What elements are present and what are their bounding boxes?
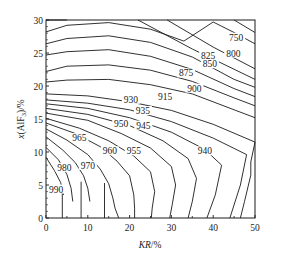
y-tick-label: 25 [34, 49, 44, 59]
contour-level-label: 955 [127, 146, 142, 156]
contour-level-label: 970 [81, 161, 96, 171]
y-tick-label: 10 [34, 148, 44, 158]
y-axis-label-body: (AlF [16, 117, 27, 135]
y-tick-label: 15 [34, 115, 44, 125]
contour-level-label: 875 [179, 68, 194, 78]
contour-line [230, 155, 247, 218]
contour-line [113, 198, 119, 218]
contour-line [188, 178, 196, 218]
contour-level-label: 750 [229, 33, 244, 43]
x-tick-label: 0 [44, 223, 49, 233]
contour-level-label: 965 [72, 133, 87, 143]
contour-level-label: 935 [136, 106, 151, 116]
y-tick-label: 0 [38, 214, 43, 224]
contour-line [46, 50, 255, 97]
x-axis-label: KR/% [138, 240, 162, 250]
y-tick-label: 20 [34, 82, 44, 92]
y-axis-label: x(AlF3)/% [16, 99, 28, 139]
x-tick-label: 10 [83, 223, 93, 233]
contour-level-label: 990 [49, 185, 64, 195]
contour-line [46, 65, 255, 106]
y-tick-label: 30 [34, 16, 44, 26]
contour-line [170, 185, 176, 218]
y-axis-label-unit: )/% [16, 99, 27, 113]
contour-level-label: 940 [198, 146, 213, 156]
contour-lines [46, 20, 255, 218]
plot-frame [46, 20, 255, 218]
y-tick-label: 5 [38, 181, 43, 191]
x-axis-label-unit: /% [151, 240, 162, 250]
contour-level-label: 850 [203, 59, 218, 69]
contour-line [207, 165, 222, 218]
contour-line [151, 192, 154, 218]
contour-line [234, 20, 255, 33]
contour-level-label: 930 [124, 95, 139, 105]
contour-level-label: 915 [158, 92, 173, 102]
contour-level-label: 900 [187, 84, 202, 94]
x-axis-label-var: KR [138, 240, 151, 250]
x-tick-label: 40 [208, 223, 218, 233]
x-tick-label: 20 [125, 223, 135, 233]
x-tick-label: 30 [167, 223, 177, 233]
contour-line [240, 142, 255, 218]
contour-level-label: 945 [136, 121, 151, 131]
contour-level-label: 950 [114, 119, 129, 129]
contour-level-label: 800 [226, 49, 241, 59]
y-axis-ticks: 051015202530 [34, 16, 50, 224]
contour-level-label: 960 [103, 146, 118, 156]
contour-chart: 7508008258508759009159309359459509559609… [0, 0, 284, 259]
contour-level-labels: 7508008258508759009159309359459509559609… [47, 33, 245, 195]
contour-line [134, 195, 135, 218]
contour-level-label: 980 [57, 163, 72, 173]
x-tick-label: 50 [250, 223, 260, 233]
